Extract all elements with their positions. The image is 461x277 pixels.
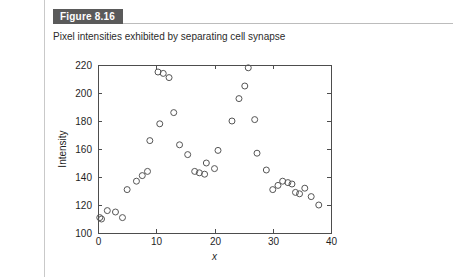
scatter-point xyxy=(104,208,110,214)
y-axis-tick-labels: 100120140160180200220 xyxy=(75,60,92,239)
x-axis-tick-labels: 010203040 xyxy=(96,236,338,247)
scatter-point xyxy=(112,209,118,215)
x-tick-label: 20 xyxy=(210,236,222,247)
y-tick-label: 220 xyxy=(75,60,92,71)
scatter-point xyxy=(292,189,298,195)
scatter-point xyxy=(316,202,322,208)
scatter-point xyxy=(145,168,151,174)
scatter-point xyxy=(308,194,314,200)
y-tick-label: 140 xyxy=(75,172,92,183)
scatter-point xyxy=(139,173,145,179)
scatter-point xyxy=(252,117,258,123)
y-tick-label: 180 xyxy=(75,116,92,127)
scatter-plot-figure: 010203040 100120140160180200220 xIntensi… xyxy=(0,0,461,277)
scatter-point xyxy=(166,75,172,81)
x-tick-label: 40 xyxy=(326,236,338,247)
y-tick-label: 200 xyxy=(75,88,92,99)
scatter-point xyxy=(203,160,209,166)
y-tick-label: 100 xyxy=(75,228,92,239)
scatter-point xyxy=(263,167,269,173)
y-axis-ticks xyxy=(98,66,331,234)
scatter-point xyxy=(147,138,153,144)
scatter-point xyxy=(119,215,125,221)
scatter-point xyxy=(242,83,248,89)
scatter-point xyxy=(157,121,163,127)
scatter-point xyxy=(254,150,260,156)
scatter-point xyxy=(215,147,221,153)
scatter-point xyxy=(289,181,295,187)
scatter-point xyxy=(297,191,303,197)
x-tick-label: 10 xyxy=(151,236,163,247)
x-tick-label: 30 xyxy=(268,236,280,247)
page-canvas: Figure 8.16 Pixel intensities exhibited … xyxy=(0,0,461,277)
scatter-point xyxy=(171,110,177,116)
scatter-point xyxy=(236,96,242,102)
scatter-markers xyxy=(97,65,322,222)
scatter-point xyxy=(97,215,103,221)
x-axis-title: x xyxy=(211,251,218,262)
y-axis-title: Intensity xyxy=(57,130,68,167)
scatter-point xyxy=(212,166,218,172)
scatter-point xyxy=(270,187,276,193)
scatter-point xyxy=(133,178,139,184)
scatter-plot-svg: 010203040 100120140160180200220 xIntensi… xyxy=(0,0,461,277)
y-tick-label: 120 xyxy=(75,200,92,211)
x-tick-label: 0 xyxy=(96,236,102,247)
scatter-point xyxy=(229,118,235,124)
scatter-point xyxy=(124,187,130,193)
scatter-point xyxy=(302,185,308,191)
y-tick-label: 160 xyxy=(75,144,92,155)
scatter-point xyxy=(185,152,191,158)
scatter-point xyxy=(177,142,183,148)
scatter-point xyxy=(99,216,105,222)
